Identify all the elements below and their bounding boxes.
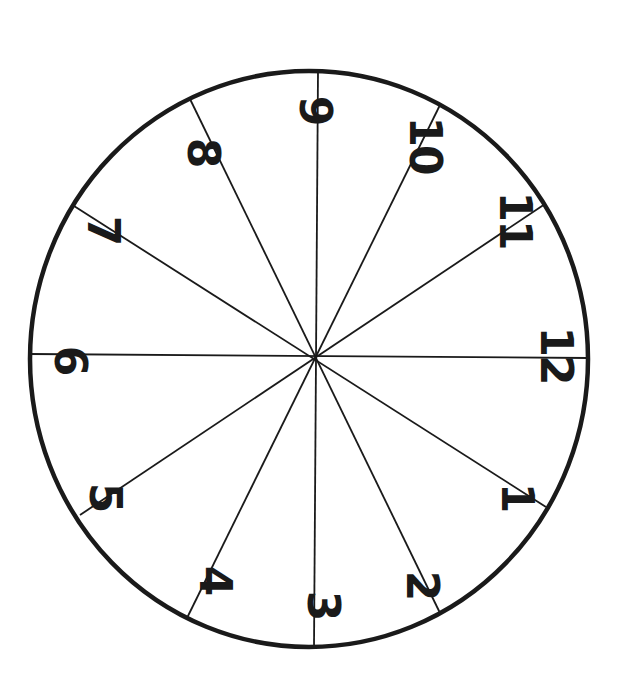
numeral-9: 9 — [285, 80, 345, 140]
numeral-8: 8 — [173, 122, 233, 182]
numeral-5: 5 — [75, 467, 135, 527]
numeral-11: 11 — [485, 190, 545, 250]
sector-spokes — [30, 71, 588, 647]
numeral-7: 7 — [73, 200, 133, 260]
numeral-3: 3 — [293, 575, 353, 635]
numeral-6: 6 — [40, 330, 100, 390]
numeral-10: 10 — [395, 115, 455, 175]
numeral-2: 2 — [392, 555, 452, 615]
numeral-4: 4 — [185, 550, 245, 610]
numeral-1: 1 — [487, 467, 547, 527]
numeral-12: 12 — [526, 325, 586, 385]
spoke-11-5 — [80, 204, 545, 515]
clock-outline-circle — [30, 71, 588, 647]
